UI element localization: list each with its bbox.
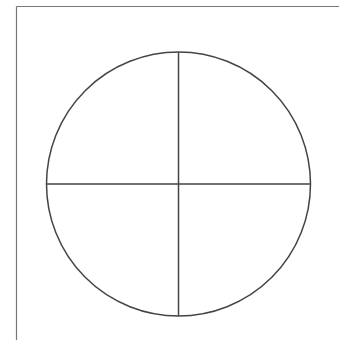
quadrant-diagram [0,0,339,340]
